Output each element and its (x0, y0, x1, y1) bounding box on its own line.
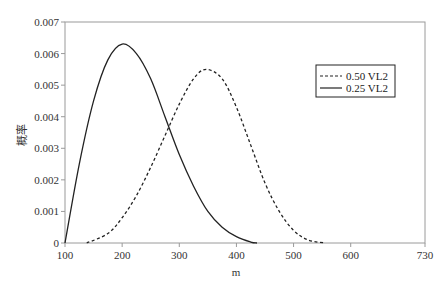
x-tick-label: 500 (285, 249, 302, 261)
legend: 0.50 VL2 0.25 VL2 (316, 65, 395, 97)
plot-frame (65, 22, 425, 243)
x-tick-label: 730 (417, 249, 434, 261)
legend-label-0: 0.50 VL2 (346, 70, 388, 82)
x-axis-title: m (232, 266, 241, 278)
y-axis-title: 概率 (15, 124, 28, 146)
y-axis: 00.0010.0020.0030.0040.0050.0060.007 (34, 16, 65, 249)
y-tick-label: 0.002 (34, 174, 59, 186)
y-tick-label: 0.007 (34, 16, 59, 28)
x-tick-label: 600 (342, 249, 359, 261)
y-tick-label: 0.003 (34, 142, 59, 154)
y-tick-label: 0.006 (34, 48, 59, 60)
x-tick-label: 400 (228, 249, 245, 261)
y-tick-label: 0 (54, 237, 60, 249)
series-line-dashed (87, 69, 325, 243)
x-tick-label: 100 (57, 249, 74, 261)
legend-label-1: 0.25 VL2 (346, 82, 388, 94)
series-layer (65, 44, 325, 243)
x-tick-label: 300 (171, 249, 188, 261)
x-axis: 100200300400500600730 (57, 243, 434, 261)
y-tick-label: 0.005 (34, 79, 59, 91)
y-tick-label: 0.004 (34, 111, 59, 123)
x-tick-label: 200 (114, 249, 131, 261)
probability-line-chart: 100200300400500600730 00.0010.0020.0030.… (0, 0, 448, 292)
y-tick-label: 0.001 (34, 205, 59, 217)
